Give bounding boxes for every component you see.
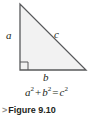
caption-chevron-icon: >: [2, 106, 7, 115]
figure-container: a c b a2+b2=c2 > Figure 9.10: [0, 0, 93, 124]
equation-operator-equals: =: [51, 86, 59, 98]
caption-label: Figure 9.10: [8, 106, 56, 115]
right-triangle-diagram: a c b: [0, 0, 93, 84]
side-label-a: a: [6, 30, 12, 41]
side-label-b: b: [43, 72, 49, 83]
pythagorean-equation: a2+b2=c2: [0, 86, 93, 98]
equation-term-c-exponent: 2: [64, 85, 68, 93]
triangle-shape: [20, 4, 86, 70]
figure-caption: > Figure 9.10: [2, 106, 93, 115]
side-label-c: c: [54, 29, 59, 40]
